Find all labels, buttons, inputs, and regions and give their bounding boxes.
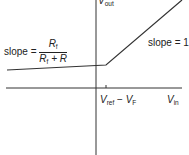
plot-svg: [0, 0, 189, 155]
num-main: R: [49, 38, 56, 49]
x-axis-label: Vin: [167, 95, 179, 107]
den-main: R: [39, 53, 46, 64]
fraction-numerator: Rf: [39, 39, 67, 53]
den-rest: + R: [48, 53, 67, 64]
y-label-main: V: [98, 0, 105, 6]
right-slope-label: slope = 1: [148, 38, 189, 48]
x-label-sub: in: [174, 99, 179, 106]
slope-prefix: slope =: [4, 46, 39, 57]
left-slope-label: slope = Rf Rf + R: [4, 39, 67, 65]
tick-a: V: [100, 94, 107, 105]
y-label-sub: out: [105, 0, 114, 7]
y-axis-label: Vout: [98, 0, 114, 8]
slope-fraction: Rf Rf + R: [39, 39, 67, 65]
num-sub: f: [56, 43, 58, 50]
tick-b-sub: F: [132, 99, 136, 106]
tick-label: Vref − VF: [100, 95, 136, 107]
tick-minus: −: [114, 94, 125, 105]
x-label-main: V: [167, 94, 174, 105]
fraction-denominator: Rf + R: [39, 53, 67, 66]
